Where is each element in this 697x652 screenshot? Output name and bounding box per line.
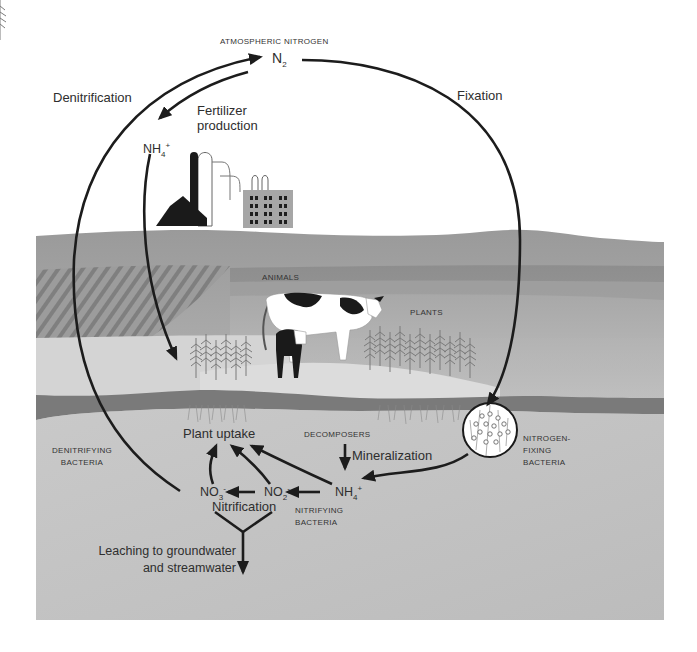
fertilizer-production-line1: Fertilizer: [197, 104, 258, 119]
n2-subscript: 2: [282, 60, 286, 69]
nitrogen-cycle-diagram: ATMOSPHERIC NITROGEN N2 Denitrification …: [0, 0, 697, 652]
nh4-soil-charge: +: [358, 484, 363, 493]
bacteria-circle-icon: [463, 403, 517, 457]
nitrification-label: Nitrification: [212, 500, 276, 515]
n2-label: N2: [272, 50, 287, 69]
nh4-subscript: 4: [161, 150, 165, 159]
n2-symbol: N: [272, 50, 282, 66]
factory-icon: [156, 152, 293, 228]
leaching-line1: Leaching to groundwater: [81, 543, 236, 560]
denitrifying-bacteria-line1: DENITRIFYING: [52, 445, 112, 457]
nitrogen-fixing-bacteria-label: NITROGEN- FIXING BACTERIA: [523, 433, 571, 469]
decomposers-label: DECOMPOSERS: [304, 430, 370, 439]
nitrifying-bacteria-line2: BACTERIA: [295, 517, 343, 529]
nh4-symbol: NH: [143, 142, 161, 156]
no2-subscript: 2: [283, 493, 287, 502]
no3-charge: -: [223, 484, 226, 493]
nitrifying-bacteria-line1: NITRIFYING: [295, 505, 343, 517]
no2-charge: -: [287, 484, 290, 493]
nitrifying-bacteria-label: NITRIFYING BACTERIA: [295, 505, 343, 529]
plants-label: PLANTS: [410, 308, 443, 317]
nh4-fertilizer-label: NH4+: [143, 141, 170, 159]
denitrifying-bacteria-line2: BACTERIA: [52, 457, 112, 469]
denitrifying-bacteria-label: DENITRIFYING BACTERIA: [52, 445, 112, 469]
fertilizer-production-label: Fertilizer production: [197, 104, 258, 134]
nh4-soil-subscript: 4: [353, 493, 357, 502]
leaching-label: Leaching to groundwater and streamwater: [81, 543, 236, 577]
leaching-line2: and streamwater: [81, 560, 236, 577]
nitrogen-fixing-bacteria-line3: BACTERIA: [523, 457, 571, 469]
denitrification-label: Denitrification: [53, 91, 132, 106]
fixation-label: Fixation: [457, 89, 503, 104]
plant-uptake-label: Plant uptake: [183, 427, 255, 442]
nitrogen-fixing-bacteria-line1: NITROGEN-: [523, 433, 571, 445]
nh4-soil-symbol: NH: [335, 485, 353, 499]
no3-symbol: NO: [200, 485, 219, 499]
fertilizer-production-line2: production: [197, 119, 258, 134]
nh4-charge: +: [166, 141, 171, 150]
atmospheric-nitrogen-label: ATMOSPHERIC NITROGEN: [220, 37, 329, 46]
animals-label: ANIMALS: [262, 273, 299, 282]
mineralization-label: Mineralization: [352, 449, 432, 464]
no2-symbol: NO: [264, 485, 283, 499]
nitrogen-fixing-bacteria-line2: FIXING: [523, 445, 571, 457]
nh4-soil-label: NH4+: [335, 484, 362, 502]
